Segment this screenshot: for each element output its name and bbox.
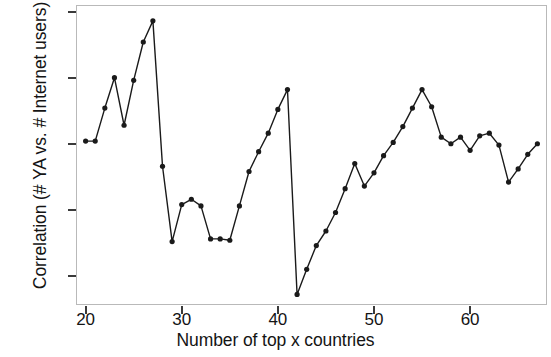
y-tick-mark <box>68 209 76 211</box>
y-tick-mark <box>68 275 76 277</box>
y-tick-mark <box>68 11 76 13</box>
x-tick-mark <box>277 306 279 314</box>
x-axis-label: Number of top x countries <box>0 330 551 351</box>
plot-area <box>76 5 547 305</box>
y-tick-mark <box>68 143 76 145</box>
x-tick-mark <box>469 306 471 314</box>
y-tick-mark <box>68 77 76 79</box>
y-axis-label: Correlation (# YA vs. # Internet users) <box>30 0 51 306</box>
chart-figure: Correlation (# YA vs. # Internet users) … <box>0 0 551 357</box>
x-tick-mark <box>181 306 183 314</box>
x-tick-mark <box>373 306 375 314</box>
x-tick-mark <box>85 306 87 314</box>
